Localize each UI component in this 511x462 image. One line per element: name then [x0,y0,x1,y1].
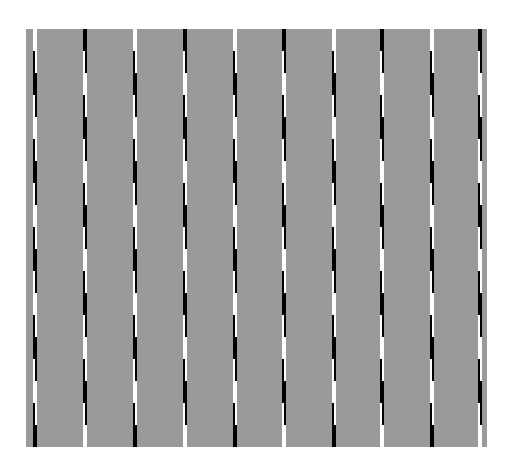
line-segment [282,117,286,139]
line-segment [380,161,384,183]
line-segment [83,227,87,249]
line-segment [233,183,237,205]
line-segment [380,73,384,95]
line-segment [332,337,336,359]
line-segment [33,381,37,403]
line-segment [430,73,434,95]
line-segment [282,403,286,425]
line-segment [33,117,37,139]
line-segment [83,293,87,315]
line-segment [430,249,434,271]
striped-line [233,29,237,447]
line-segment [183,73,187,95]
line-segment [233,51,237,73]
line-segment [478,51,482,73]
line-segment [430,205,434,227]
striped-line [83,29,87,447]
line-segment [380,425,384,447]
line-segment [380,117,384,139]
line-segment [332,315,336,337]
line-segment [478,227,482,249]
line-segment [83,337,87,359]
striped-line [282,29,286,447]
line-segment [233,205,237,227]
line-segment [33,249,37,271]
line-segment [332,425,336,447]
line-segment [332,29,336,51]
line-segment [33,425,37,447]
line-segment [183,425,187,447]
line-segment [478,161,482,183]
line-segment [133,29,137,51]
line-segment [430,381,434,403]
line-segment [282,337,286,359]
line-segment [478,117,482,139]
line-segment [282,51,286,73]
line-segment [233,139,237,161]
line-segment [430,359,434,381]
line-segment [33,29,37,51]
line-segment [183,315,187,337]
line-segment [430,117,434,139]
line-segment [380,403,384,425]
line-segment [83,161,87,183]
striped-line [133,29,137,447]
line-segment [332,95,336,117]
line-segment [83,51,87,73]
line-segment [83,381,87,403]
line-segment [332,183,336,205]
line-segment [282,29,286,51]
line-segment [380,205,384,227]
line-segment [430,51,434,73]
line-segment [478,359,482,381]
line-segment [380,271,384,293]
line-segment [233,249,237,271]
line-segment [233,227,237,249]
line-segment [83,117,87,139]
striped-line [33,29,37,447]
line-segment [282,271,286,293]
line-segment [233,315,237,337]
line-segment [133,95,137,117]
line-segment [83,95,87,117]
line-segment [233,293,237,315]
line-segment [33,293,37,315]
line-segment [430,337,434,359]
line-segment [332,51,336,73]
line-segment [33,95,37,117]
line-segment [33,271,37,293]
line-segment [478,95,482,117]
line-segment [133,403,137,425]
line-segment [282,359,286,381]
line-segment [430,95,434,117]
line-segment [332,271,336,293]
line-segment [233,161,237,183]
line-segment [380,227,384,249]
line-segment [332,359,336,381]
line-segment [233,29,237,51]
line-segment [380,29,384,51]
line-segment [478,271,482,293]
line-segment [478,29,482,51]
line-segment [478,293,482,315]
line-segment [133,425,137,447]
line-segment [133,227,137,249]
line-segment [133,359,137,381]
line-segment [233,403,237,425]
line-segment [83,183,87,205]
line-segment [133,117,137,139]
line-segment [133,161,137,183]
line-segment [233,337,237,359]
line-segment [282,227,286,249]
line-segment [83,359,87,381]
line-segment [380,249,384,271]
line-segment [478,403,482,425]
line-segment [282,249,286,271]
line-segment [133,271,137,293]
line-segment [133,315,137,337]
line-segment [183,205,187,227]
line-segment [282,205,286,227]
line-segment [478,315,482,337]
line-segment [332,205,336,227]
striped-line [183,29,187,447]
